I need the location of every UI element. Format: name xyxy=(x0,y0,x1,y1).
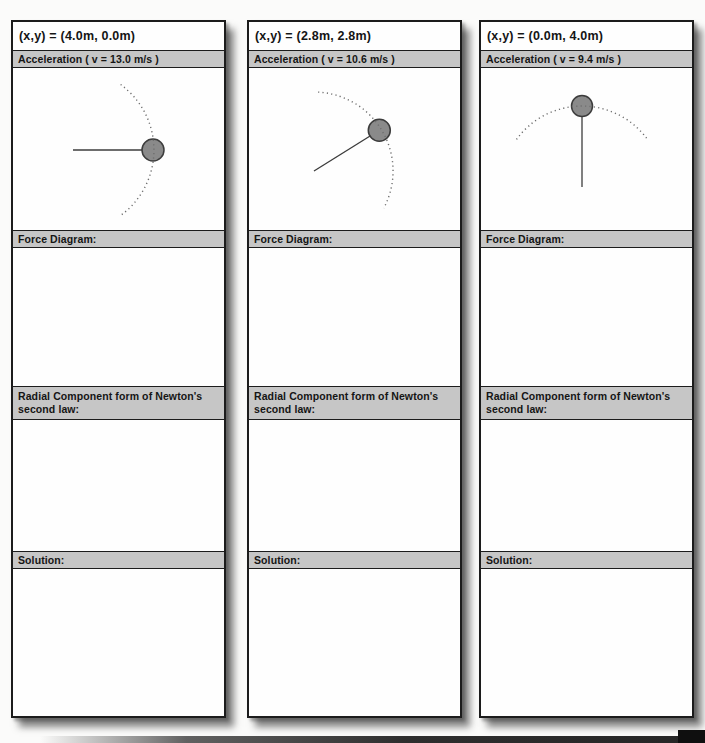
radial-law-header: Radial Component form of Newton's second… xyxy=(13,386,224,420)
position-label: (x,y) = (0.0m, 4.0m) xyxy=(481,22,692,50)
acceleration-header: Acceleration ( v = 13.0 m/s ) xyxy=(13,50,224,68)
force-diagram-blank-area xyxy=(249,248,460,386)
force-diagram-header: Force Diagram: xyxy=(249,230,460,248)
pendulum-panel-2: (x,y) = (2.8m, 2.8m) Acceleration ( v = … xyxy=(247,20,462,718)
solution-blank-area xyxy=(249,569,460,716)
force-diagram-header: Force Diagram: xyxy=(481,230,692,248)
pendulum-diagram xyxy=(13,68,224,230)
radial-law-header: Radial Component form of Newton's second… xyxy=(481,386,692,420)
pendulum-panel-1: (x,y) = (4.0m, 0.0m) Acceleration ( v = … xyxy=(11,20,226,718)
solution-header: Solution: xyxy=(13,551,224,569)
radial-law-blank-area xyxy=(249,420,460,551)
pendulum-panel-3: (x,y) = (0.0m, 4.0m) Acceleration ( v = … xyxy=(479,20,694,718)
position-label: (x,y) = (4.0m, 0.0m) xyxy=(13,22,224,50)
solution-blank-area xyxy=(13,569,224,716)
radial-law-blank-area xyxy=(481,420,692,551)
pendulum-diagram xyxy=(249,68,460,230)
pendulum-diagram-area xyxy=(13,68,224,230)
radial-law-header: Radial Component form of Newton's second… xyxy=(249,386,460,420)
force-diagram-header: Force Diagram: xyxy=(13,230,224,248)
pendulum-diagram xyxy=(481,68,692,230)
solution-blank-area xyxy=(481,569,692,716)
pendulum-diagram-area xyxy=(481,68,692,230)
partial-next-row-corner xyxy=(678,730,705,743)
radial-law-blank-area xyxy=(13,420,224,551)
force-diagram-blank-area xyxy=(13,248,224,386)
worksheet-page: (x,y) = (4.0m, 0.0m) Acceleration ( v = … xyxy=(0,0,705,743)
partial-next-row-edge xyxy=(40,736,705,743)
solution-header: Solution: xyxy=(249,551,460,569)
position-label: (x,y) = (2.8m, 2.8m) xyxy=(249,22,460,50)
acceleration-header: Acceleration ( v = 10.6 m/s ) xyxy=(249,50,460,68)
pendulum-diagram-area xyxy=(249,68,460,230)
force-diagram-blank-area xyxy=(481,248,692,386)
solution-header: Solution: xyxy=(481,551,692,569)
acceleration-header: Acceleration ( v = 9.4 m/s ) xyxy=(481,50,692,68)
